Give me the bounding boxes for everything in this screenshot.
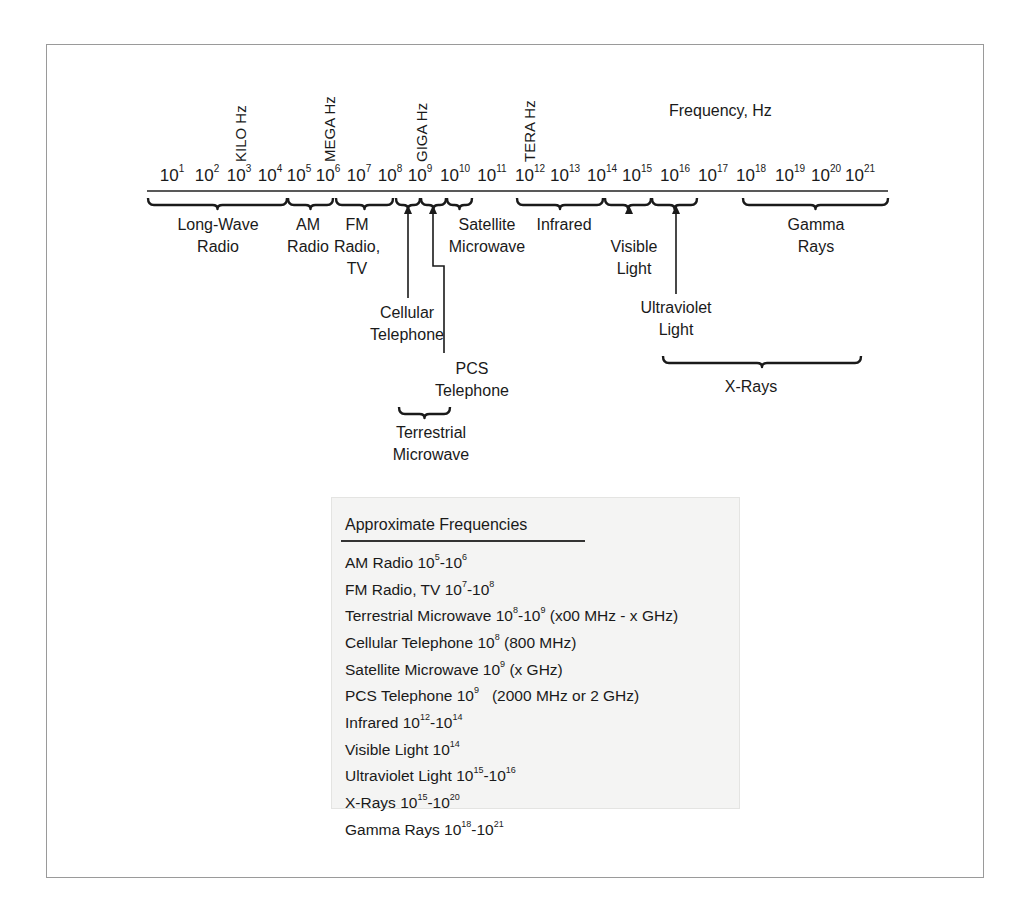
- band-label: GammaRays: [788, 214, 845, 258]
- band-label: Long-WaveRadio: [177, 214, 258, 258]
- range-brace: [447, 198, 472, 209]
- tick-label: 1014: [587, 165, 617, 186]
- range-brace: [517, 198, 603, 209]
- tick-label: 1012: [515, 165, 545, 186]
- legend-item: AM Radio 105-106: [345, 548, 678, 575]
- legend-title-underline: [341, 540, 585, 542]
- legend-item: Visible Light 1014: [345, 735, 678, 762]
- band-label: VisibleLight: [611, 236, 658, 280]
- tick-label: 109: [408, 165, 432, 186]
- band-label: TerrestrialMicrowave: [393, 422, 469, 466]
- tick-label: 105: [287, 165, 311, 186]
- range-brace: [288, 198, 333, 209]
- tick-label: 1015: [622, 165, 652, 186]
- legend-item: Ultraviolet Light 1015-1016: [345, 761, 678, 788]
- legend-item: Satellite Microwave 109 (x GHz): [345, 655, 678, 682]
- band-label: PCSTelephone: [435, 358, 509, 402]
- prefix-label: MEGA Hz: [321, 96, 338, 162]
- legend-item: PCS Telephone 109 (2000 MHz or 2 GHz): [345, 681, 678, 708]
- axis-title: Frequency, Hz: [669, 102, 772, 120]
- legend-item: Infrared 1012-1014: [345, 708, 678, 735]
- tick-label: 1017: [698, 165, 728, 186]
- legend-item: FM Radio, TV 107-108: [345, 575, 678, 602]
- band-label: FMRadio,TV: [334, 214, 380, 280]
- tick-label: 102: [195, 165, 219, 186]
- tick-label: 1011: [477, 165, 506, 186]
- band-label: CellularTelephone: [370, 302, 444, 346]
- tick-label: 101: [160, 165, 184, 186]
- tick-label: 1020: [811, 165, 841, 186]
- tick-label: 1016: [660, 165, 690, 186]
- tick-label: 1019: [775, 165, 805, 186]
- tick-label: 108: [378, 165, 402, 186]
- legend-item: Cellular Telephone 108 (800 MHz): [345, 628, 678, 655]
- tick-label: 107: [347, 165, 371, 186]
- band-label: SatelliteMicrowave: [449, 214, 525, 258]
- tick-label: 1018: [736, 165, 766, 186]
- legend-box: Approximate Frequencies AM Radio 105-106…: [331, 497, 740, 809]
- prefix-label: TERA Hz: [521, 100, 538, 162]
- tick-label: 1010: [440, 165, 470, 186]
- range-brace: [663, 356, 861, 367]
- legend-list: AM Radio 105-106FM Radio, TV 107-108Terr…: [345, 548, 678, 841]
- band-label: X-Rays: [725, 376, 777, 398]
- legend-item: X-Rays 1015-1020: [345, 788, 678, 815]
- range-brace: [652, 198, 697, 209]
- legend-item: Terrestrial Microwave 108-109 (x00 MHz -…: [345, 601, 678, 628]
- legend-title: Approximate Frequencies: [345, 516, 527, 534]
- tick-label: 104: [258, 165, 282, 186]
- legend-item: Gamma Rays 1018-1021: [345, 815, 678, 842]
- tick-label: 103: [227, 165, 251, 186]
- band-label: Infrared: [536, 214, 591, 236]
- range-brace: [336, 198, 393, 209]
- band-label: UltravioletLight: [640, 297, 711, 341]
- tick-label: 1021: [845, 165, 875, 186]
- prefix-label: GIGA Hz: [413, 103, 430, 162]
- band-label: AMRadio: [287, 214, 329, 258]
- tick-label: 1013: [550, 165, 580, 186]
- range-brace: [399, 407, 450, 418]
- range-brace: [148, 198, 287, 209]
- prefix-label: KILO Hz: [232, 105, 249, 162]
- tick-label: 106: [316, 165, 340, 186]
- range-brace: [743, 198, 888, 209]
